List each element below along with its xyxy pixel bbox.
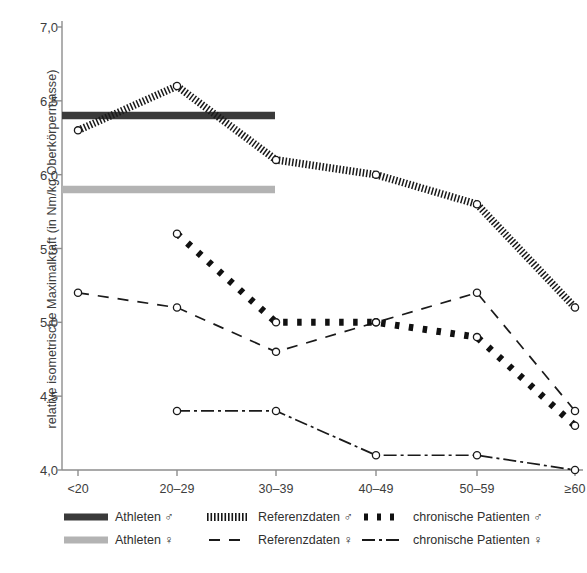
legend-label-chronische-male: chronische Patienten ♂ bbox=[413, 510, 543, 524]
series-chronische-patienten- bbox=[177, 234, 575, 426]
data-point-chronische-patienten- bbox=[473, 334, 480, 341]
legend-swatch-chronische-female bbox=[362, 533, 406, 547]
data-point-referenzdaten- bbox=[571, 407, 578, 414]
legend-item-chronische-male: chronische Patienten ♂ bbox=[362, 506, 543, 527]
data-point-referenzdaten- bbox=[473, 201, 480, 208]
data-point-chronische-patienten- bbox=[173, 230, 180, 237]
data-point-referenzdaten- bbox=[372, 171, 379, 178]
legend-label-athleten-female: Athleten ♀ bbox=[115, 533, 174, 547]
legend-label-referenzdaten-male: Referenzdaten ♂ bbox=[258, 510, 353, 524]
data-point-chronische-patienten- bbox=[372, 319, 379, 326]
legend-row-female: Athleten ♀ Referenzdaten ♀ chronische Pa… bbox=[62, 529, 582, 550]
data-point-referenzdaten- bbox=[571, 304, 578, 311]
legend-swatch-referenzdaten-female bbox=[207, 533, 251, 547]
data-point-referenzdaten- bbox=[74, 289, 81, 296]
legend-row-male: Athleten ♂ Referenzdaten ♂ chronische Pa… bbox=[62, 506, 582, 527]
data-point-referenzdaten- bbox=[473, 289, 480, 296]
data-point-referenzdaten- bbox=[74, 127, 81, 134]
legend-label-chronische-female: chronische Patienten ♀ bbox=[413, 533, 543, 547]
data-point-chronische-patienten- bbox=[473, 452, 480, 459]
legend-item-chronische-female: chronische Patienten ♀ bbox=[362, 529, 543, 550]
data-point-chronische-patienten- bbox=[272, 319, 279, 326]
data-point-chronische-patienten- bbox=[272, 407, 279, 414]
legend-label-referenzdaten-female: Referenzdaten ♀ bbox=[258, 533, 353, 547]
series-chronische-patienten- bbox=[177, 411, 575, 470]
legend-swatch-athleten-female bbox=[64, 533, 108, 547]
legend: Athleten ♂ Referenzdaten ♂ chronische Pa… bbox=[62, 506, 582, 552]
series-referenzdaten- bbox=[78, 293, 575, 411]
data-point-chronische-patienten- bbox=[571, 466, 578, 473]
data-point-referenzdaten- bbox=[272, 156, 279, 163]
legend-swatch-chronische-male bbox=[362, 510, 406, 524]
data-point-chronische-patienten- bbox=[571, 422, 578, 429]
legend-item-athleten-female: Athleten ♀ bbox=[64, 529, 174, 550]
legend-item-referenzdaten-male: Referenzdaten ♂ bbox=[207, 506, 353, 527]
legend-swatch-athleten-male bbox=[64, 510, 108, 524]
data-point-chronische-patienten- bbox=[372, 452, 379, 459]
legend-label-athleten-male: Athleten ♂ bbox=[115, 510, 174, 524]
plot-area bbox=[0, 0, 587, 573]
data-point-chronische-patienten- bbox=[173, 407, 180, 414]
data-point-referenzdaten- bbox=[272, 348, 279, 355]
data-point-referenzdaten- bbox=[173, 82, 180, 89]
legend-item-referenzdaten-female: Referenzdaten ♀ bbox=[207, 529, 353, 550]
figure-chart: relative isometrische Maximalkraft (in N… bbox=[0, 0, 587, 573]
legend-swatch-referenzdaten-male bbox=[207, 510, 251, 524]
data-point-referenzdaten- bbox=[173, 304, 180, 311]
legend-item-athleten-male: Athleten ♂ bbox=[64, 506, 174, 527]
figure-caption bbox=[22, 561, 574, 572]
